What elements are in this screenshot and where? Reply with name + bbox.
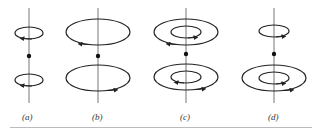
panel-c: (c) (154, 8, 218, 122)
panel-d: (d) (242, 8, 306, 122)
panel-b: (b) (66, 8, 130, 122)
panel-label-d: (d) (268, 112, 279, 122)
panel-label-a: (a) (22, 112, 33, 122)
panel-a: (a) (15, 8, 43, 122)
figure: (a) (b) (c) (d) (0, 0, 324, 131)
panel-label-c: (c) (180, 112, 190, 122)
panel-label-b: (b) (92, 112, 103, 122)
